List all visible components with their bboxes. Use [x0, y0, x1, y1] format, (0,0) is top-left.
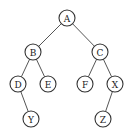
tree-node-x: X [107, 76, 123, 92]
node-label: B [30, 48, 37, 58]
node-label: Y [27, 115, 35, 125]
edge-x-z [106, 92, 113, 112]
edge-c-x [103, 59, 111, 77]
tree-node-z: Z [95, 111, 111, 127]
tree-node-a: A [59, 10, 75, 26]
tree-node-b: B [25, 44, 41, 60]
tree-node-f: F [77, 76, 93, 92]
edge-b-d [21, 59, 29, 77]
tree-node-e: E [40, 76, 56, 92]
binary-tree-diagram: ABCDEFXYZ [0, 0, 133, 137]
edge-b-e [36, 59, 44, 77]
node-label: D [14, 80, 21, 90]
tree-edges [21, 24, 113, 112]
node-label: C [97, 48, 104, 58]
node-label: X [112, 80, 119, 90]
node-label: E [45, 80, 52, 90]
edge-a-c [73, 24, 95, 47]
node-label: Z [100, 115, 106, 125]
edge-c-f [88, 59, 96, 77]
edge-a-b [39, 24, 62, 47]
node-label: A [63, 14, 71, 24]
edge-d-y [21, 91, 28, 111]
tree-node-y: Y [23, 111, 39, 127]
tree-node-c: C [92, 44, 108, 60]
tree-node-d: D [10, 76, 26, 92]
node-label: F [82, 80, 88, 90]
